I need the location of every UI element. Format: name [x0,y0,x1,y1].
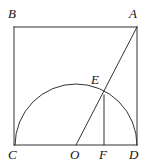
vertex-label-O: O [70,148,79,161]
vertex-label-F: F [99,148,107,161]
vertex-label-A: A [129,7,137,20]
geometry-canvas [0,0,150,166]
segment-diagonal-OA [76,27,137,145]
vertex-label-D: D [129,148,138,161]
vertex-label-E: E [91,73,99,86]
geometry-figure: B A E C O F D [0,0,150,166]
semicircle-arc-CD [15,84,137,145]
vertex-label-C: C [8,148,17,161]
vertex-label-B: B [8,7,16,20]
